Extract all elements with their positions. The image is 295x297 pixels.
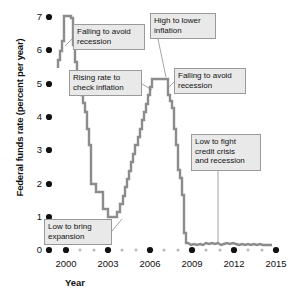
- callout-low-to-bring-expansion: Low to bring expansion: [44, 219, 112, 245]
- federal-funds-rate-chart: 7 6 5 4 3 2 1 0 2000 2003 2006 2009 2012…: [0, 0, 295, 297]
- y-tick-label-1: 1: [28, 211, 42, 222]
- callout-low-to-fight-credit-crisis: Low to fight credit crisis and recession: [191, 134, 261, 171]
- x-tick-label-2012: 2012: [214, 258, 254, 269]
- y-tick-label-0: 0: [28, 244, 42, 255]
- x-tick-label-2003: 2003: [88, 258, 128, 269]
- x-axis-title: Year: [40, 277, 110, 288]
- callout-high-to-lower-inflation: High to lower inflation: [150, 13, 216, 39]
- callout-falling-to-avoid-recession-right: Falling to avoid recession: [174, 68, 246, 94]
- leader-line-low-to-bring-expansion: [112, 219, 122, 231]
- callout-falling-to-avoid-recession-top: Falling to avoid recession: [73, 24, 145, 50]
- x-tick-label-2000: 2000: [46, 258, 86, 269]
- y-tick-label-5: 5: [28, 78, 42, 89]
- callout-rising-rate-to-check-inflation: Rising rate to check inflation: [69, 70, 142, 96]
- y-axis-title: Federal funds rate (percent per year): [14, 3, 25, 233]
- y-tick-label-4: 4: [28, 111, 42, 122]
- x-tick-label-2009: 2009: [172, 258, 212, 269]
- y-tick-label-3: 3: [28, 144, 42, 155]
- federal-funds-rate-line: [58, 16, 272, 245]
- leader-line-high-to-lower-inflation: [158, 39, 166, 77]
- x-tick-label-2006: 2006: [130, 258, 170, 269]
- y-axis-tick-dots: [46, 14, 52, 253]
- y-tick-label-6: 6: [28, 44, 42, 55]
- y-tick-label-2: 2: [28, 178, 42, 189]
- y-tick-label-7: 7: [28, 11, 42, 22]
- x-tick-label-2015: 2015: [256, 258, 295, 269]
